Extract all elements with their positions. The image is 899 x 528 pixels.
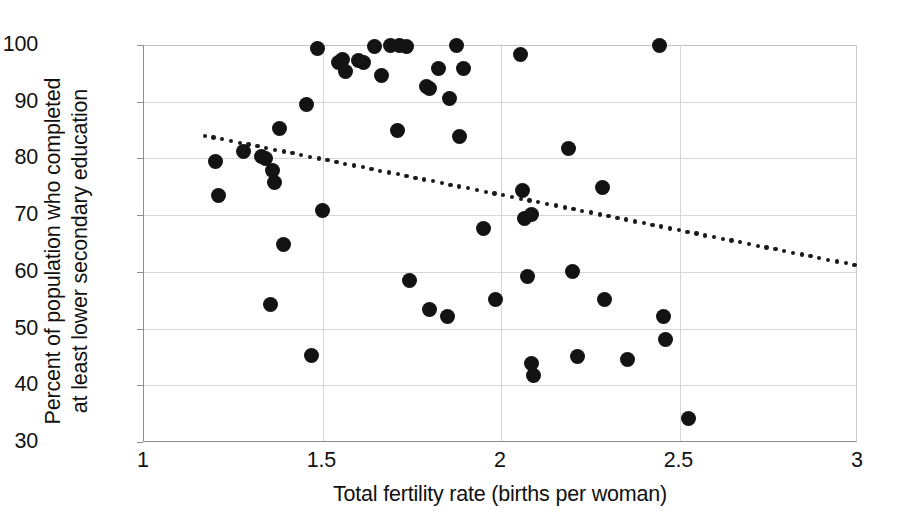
trendline-dot	[545, 202, 549, 206]
trendline-dot	[422, 177, 426, 181]
trendline-dot	[764, 245, 768, 249]
x-tick-label-1.5: 1.5	[292, 448, 352, 472]
gridline-horizontal	[144, 215, 856, 216]
data-point	[526, 368, 541, 383]
y-tick-label-100: 100	[0, 34, 38, 56]
y-tick-mark	[137, 215, 143, 216]
data-point	[304, 348, 319, 363]
trendline-dot	[352, 163, 356, 167]
data-point	[267, 175, 282, 190]
y-tick-label-90: 90	[0, 91, 38, 113]
trendline-dot	[255, 144, 259, 148]
data-point	[442, 91, 457, 106]
data-point	[356, 55, 371, 70]
data-point	[390, 123, 405, 138]
trendline-dot	[466, 186, 470, 190]
trendline-dot	[712, 235, 716, 239]
trendline-dot	[615, 216, 619, 220]
trendline-dot	[633, 219, 637, 223]
x-axis-title: Total fertility rate (births per woman)	[143, 482, 857, 507]
data-point	[513, 47, 528, 62]
gridline-vertical	[323, 45, 324, 441]
trendline-dot	[808, 254, 812, 258]
trendline-dot	[624, 217, 628, 221]
trendline-dot	[668, 226, 672, 230]
trendline-dot	[729, 238, 733, 242]
data-point	[658, 332, 673, 347]
y-tick-mark	[137, 45, 143, 46]
data-point	[402, 273, 417, 288]
trendline-dot	[606, 214, 610, 218]
x-tick-label-1: 1	[113, 448, 173, 472]
trendline-dot	[747, 242, 751, 246]
data-point	[570, 349, 585, 364]
y-axis-title-line1: Percent of population who completed	[41, 78, 65, 425]
data-point	[272, 121, 287, 136]
data-point	[565, 264, 580, 279]
trendline-dot	[642, 221, 646, 225]
trendline-dot	[396, 172, 400, 176]
y-tick-mark	[137, 329, 143, 330]
trendline-dot	[475, 188, 479, 192]
trendline-dot	[203, 134, 207, 138]
gridline-horizontal	[144, 385, 856, 386]
y-axis-title: Percent of population who completed at l…	[40, 16, 94, 486]
trendline-dot	[571, 207, 575, 211]
trendline-dot	[211, 135, 215, 139]
plot-area	[143, 45, 857, 442]
data-point	[488, 292, 503, 307]
trendline-dot	[378, 169, 382, 173]
trendline-dot	[440, 181, 444, 185]
trendline-dot	[527, 198, 531, 202]
y-axis-title-line2: at least lower secondary education	[67, 16, 94, 486]
trendline-dot	[448, 183, 452, 187]
trendline-dot	[404, 174, 408, 178]
trendline-dot	[325, 158, 329, 162]
trendline-dot	[554, 203, 558, 207]
data-point	[422, 81, 437, 96]
y-tick-mark	[137, 272, 143, 273]
trendline-dot	[457, 184, 461, 188]
trendline-dot	[738, 240, 742, 244]
trendline-dot	[694, 231, 698, 235]
y-tick-mark	[137, 385, 143, 386]
trendline-dot	[852, 263, 856, 267]
scatter-plot-figure: Percent of population who completed at l…	[0, 0, 899, 528]
trendline-dot	[791, 251, 795, 255]
trendline-dot	[273, 148, 277, 152]
trendline-dot	[484, 190, 488, 194]
trendline-dot	[782, 249, 786, 253]
x-tick-label-2: 2	[470, 448, 530, 472]
data-point	[656, 309, 671, 324]
trendline-dot	[334, 160, 338, 164]
trendline-dot	[826, 258, 830, 262]
data-point	[515, 183, 530, 198]
trendline-dot	[510, 195, 514, 199]
trendline-dot	[369, 167, 373, 171]
gridline-vertical	[501, 45, 502, 441]
trendline-dot	[220, 137, 224, 141]
data-point	[620, 352, 635, 367]
trendline-dot	[501, 193, 505, 197]
data-point	[299, 97, 314, 112]
y-tick-label-30: 30	[0, 431, 38, 453]
trendline-dot	[721, 237, 725, 241]
y-tick-mark	[137, 102, 143, 103]
y-tick-label-70: 70	[0, 204, 38, 226]
trendline-dot	[413, 176, 417, 180]
data-point	[315, 203, 330, 218]
y-tick-label-50: 50	[0, 318, 38, 340]
data-point	[476, 221, 491, 236]
trendline-dot	[580, 209, 584, 213]
trendline-dot	[756, 244, 760, 248]
data-point	[440, 309, 455, 324]
trendline-dot	[431, 179, 435, 183]
gridline-vertical	[680, 45, 681, 441]
gridline-horizontal	[144, 272, 856, 273]
trendline-dot	[361, 165, 365, 169]
data-point	[597, 292, 612, 307]
data-point	[431, 61, 446, 76]
y-tick-label-60: 60	[0, 261, 38, 283]
data-point	[520, 269, 535, 284]
trendline-dot	[563, 205, 567, 209]
